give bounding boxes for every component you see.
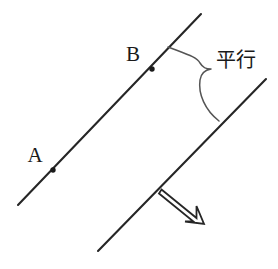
point-b-label: B xyxy=(126,42,140,66)
figure-canvas: A B 平行 xyxy=(0,0,278,269)
point-a-label: A xyxy=(27,143,43,167)
point-b-marker xyxy=(149,66,154,71)
point-a-marker xyxy=(50,167,55,172)
geometry-figure: A B 平行 xyxy=(0,0,278,269)
direction-arrow-icon xyxy=(159,190,204,225)
lower-line xyxy=(98,79,266,251)
upper-line xyxy=(18,14,201,205)
parallel-brace-icon xyxy=(168,47,219,121)
parallel-annotation-text: 平行 xyxy=(216,48,256,72)
